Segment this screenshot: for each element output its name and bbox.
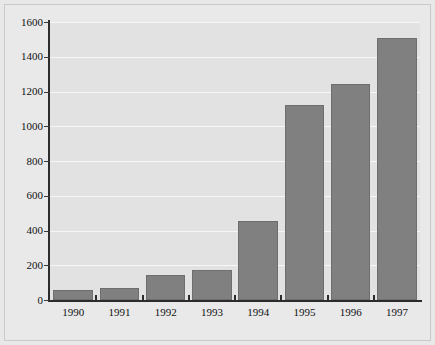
y-tick-label: 1200: [4, 86, 48, 97]
y-tick-label: 1000: [4, 121, 48, 132]
y-tick-label: 400: [4, 225, 48, 236]
bar-1992: [146, 275, 186, 300]
x-tick-label: 1992: [143, 307, 189, 318]
y-axis-labels: 02004006008001000120014001600: [0, 0, 48, 345]
bar-1994: [238, 221, 278, 300]
x-tick-1: [142, 295, 144, 302]
bar-1997: [377, 38, 417, 300]
bar-1993: [192, 270, 232, 300]
bar-1995: [285, 105, 325, 300]
x-tick-label: 1995: [281, 307, 327, 318]
y-tick-label: 1400: [4, 51, 48, 62]
y-tick-label: 600: [4, 190, 48, 201]
x-tick-label: 1994: [235, 307, 281, 318]
plot-area: [50, 22, 420, 300]
bar-chart-figure: 02004006008001000120014001600 1990199119…: [0, 0, 435, 345]
gridline-1600: [50, 22, 420, 23]
x-tick-3: [234, 295, 236, 302]
x-tick-label: 1997: [374, 307, 420, 318]
y-tick-label: 0: [4, 295, 48, 306]
x-tick-0: [95, 295, 97, 302]
y-tick-label: 200: [4, 260, 48, 271]
y-tick-label: 800: [4, 156, 48, 167]
x-tick-label: 1993: [189, 307, 235, 318]
gridline-1400: [50, 57, 420, 58]
x-tick-5: [327, 295, 329, 302]
x-tick-4: [280, 295, 282, 302]
x-tick-2: [188, 295, 190, 302]
x-tick-label: 1990: [50, 307, 96, 318]
bar-1990: [53, 290, 93, 300]
x-tick-6: [373, 295, 375, 302]
bar-1996: [331, 84, 371, 300]
x-tick-label: 1991: [96, 307, 142, 318]
bar-1991: [100, 288, 140, 301]
y-tick-label: 1600: [4, 17, 48, 28]
x-tick-label: 1996: [328, 307, 374, 318]
